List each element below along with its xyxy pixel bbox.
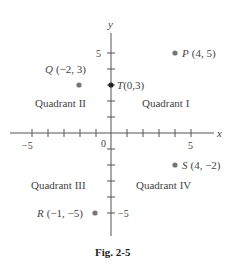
x-tick-label-neg5: −5 [22,140,33,151]
point-dot [172,162,177,167]
x-tick-label-pos5: 5 [188,140,193,151]
point-name: S [182,159,188,171]
point-P: P(4, 5) [172,47,215,60]
point-coords: (4, 5) [192,47,216,60]
point-dot [108,82,113,87]
quadrant-2-label: Quadrant II [35,97,86,109]
point-dot [92,210,97,215]
svg-text:Q(−2, 3): Q(−2, 3) [45,63,86,76]
point-coords: (−2, 3) [56,63,86,76]
point-Q: Q(−2, 3) [45,63,86,88]
figure-caption: Fig. 2-5 [95,246,131,258]
quadrant-3-label: Quadrant III [31,179,86,191]
point-coords: (−1, −5) [47,207,84,220]
y-tick-label-pos5: 5 [96,48,101,59]
point-R: R(−1, −5) [36,207,98,220]
svg-text:S(4, −2): S(4, −2) [182,159,221,172]
svg-text:T(0,3): T(0,3) [117,79,145,92]
coordinate-plane-figure: x y 0 −5 5 5 −5 Quadrant II Quadrant I Q… [0,0,236,267]
svg-text:R(−1, −5): R(−1, −5) [36,207,83,220]
point-coords: (0,3) [123,79,144,92]
point-coords: (4, −2) [191,159,221,172]
x-axis-label: x [216,127,222,139]
quadrant-1-label: Quadrant I [142,97,190,109]
point-name: R [36,207,44,219]
origin-label: 0 [101,138,106,149]
point-name: Q [45,63,53,75]
svg-text:P(4, 5): P(4, 5) [181,47,216,60]
point-dot [76,82,81,87]
y-tick-label-neg5: −5 [118,208,129,219]
y-axis-label: y [107,18,113,30]
point-name: P [181,47,189,59]
quadrant-4-label: Quadrant IV [136,179,191,191]
point-S: S(4, −2) [172,159,220,172]
point-dot [172,50,177,55]
